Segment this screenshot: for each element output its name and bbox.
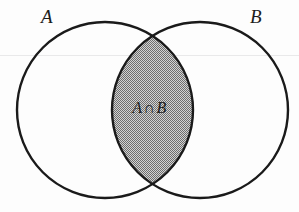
venn-diagram-figure: A B A∩B <box>0 0 299 212</box>
intersection-label: A∩B <box>0 100 299 116</box>
set-a-label: A <box>41 7 53 26</box>
set-b-label: B <box>250 7 262 26</box>
intersection-label-a: A <box>132 99 142 116</box>
intersection-operator-icon: ∩ <box>142 99 156 116</box>
intersection-label-b: B <box>157 99 167 116</box>
